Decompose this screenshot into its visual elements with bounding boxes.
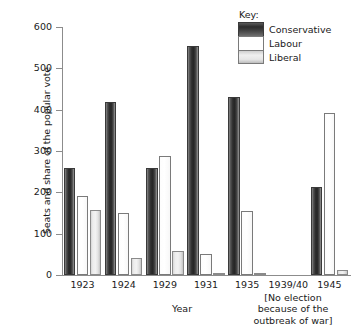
bar-liberal-1945	[337, 270, 349, 275]
y-tick-label: 500	[12, 63, 52, 73]
bar-labour-1923	[77, 196, 89, 275]
x-axis-line	[62, 275, 351, 276]
legend-items: ConservativeLabourLiberal	[238, 22, 356, 64]
bar-conservative-1931	[187, 46, 199, 275]
bar-labour-1945	[324, 113, 336, 275]
y-tick-label: 600	[12, 22, 52, 32]
y-tick-label: 200	[12, 187, 52, 197]
bar-labour-1935	[241, 211, 253, 275]
bar-labour-1929	[159, 156, 171, 275]
legend-row-conservative: Conservative	[238, 22, 356, 36]
bar-liberal-1924	[131, 258, 143, 275]
bar-liberal-1929	[172, 251, 184, 275]
bar-conservative-1945	[311, 187, 323, 275]
legend-label-conservative: Conservative	[269, 24, 331, 35]
y-tick-label: 300	[12, 146, 52, 156]
bar-chart: Seats and share of the popular vote 0100…	[0, 0, 357, 334]
plot-area	[62, 27, 350, 275]
bar-labour-1931	[200, 254, 212, 275]
footnote-line-2: because of the	[232, 303, 354, 314]
x-tick-label-1945: 1945	[303, 279, 355, 290]
bar-conservative-1929	[146, 168, 158, 275]
x-axis-title: Year	[152, 303, 212, 314]
bar-liberal-1931	[213, 273, 225, 275]
y-tick-label: 0	[12, 270, 52, 280]
legend-label-liberal: Liberal	[269, 52, 301, 63]
bar-liberal-1935	[254, 273, 266, 275]
legend-title: Key:	[239, 9, 356, 20]
y-tick-mark	[56, 275, 62, 276]
footnote-line-3: outbreak of war]	[232, 315, 354, 326]
y-tick-label: 100	[12, 229, 52, 239]
no-election-footnote: [No election because of the outbreak of …	[232, 292, 354, 326]
bar-conservative-1923	[64, 168, 76, 275]
legend-row-labour: Labour	[238, 36, 356, 50]
bar-labour-1924	[118, 213, 130, 275]
legend-swatch-labour-icon	[238, 36, 264, 50]
footnote-line-1: [No election	[232, 292, 354, 303]
legend: Key: ConservativeLabourLiberal	[238, 9, 356, 64]
legend-swatch-conservative-icon	[238, 22, 264, 36]
bar-conservative-1935	[228, 97, 240, 275]
legend-row-liberal: Liberal	[238, 50, 356, 64]
legend-label-labour: Labour	[269, 38, 302, 49]
bar-conservative-1924	[105, 102, 117, 275]
legend-swatch-liberal-icon	[238, 50, 264, 64]
y-tick-label: 400	[12, 105, 52, 115]
bar-liberal-1923	[90, 210, 102, 275]
